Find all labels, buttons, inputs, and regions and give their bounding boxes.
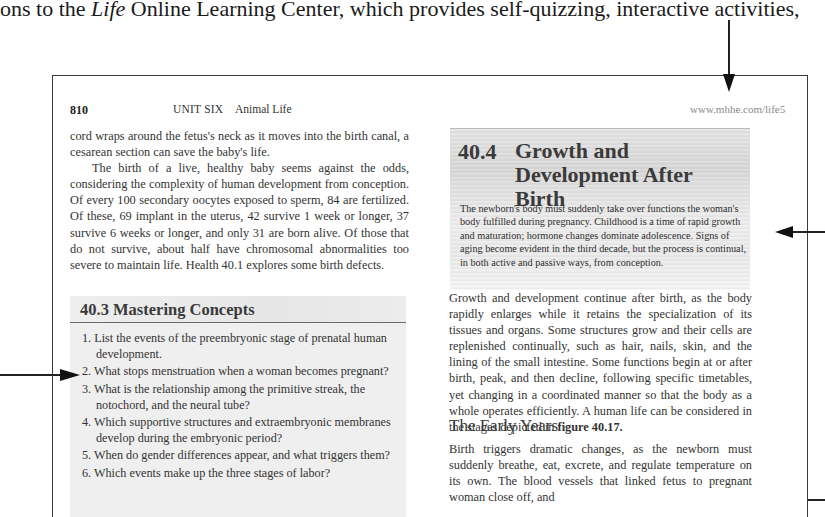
arrow-down-icon bbox=[723, 74, 735, 92]
callout-line-right-bottom bbox=[808, 499, 825, 501]
callout-arrow-left bbox=[0, 374, 62, 376]
caption-after: Online Learning Center, which provides s… bbox=[125, 0, 799, 21]
running-head: 810 UNIT SIX Animal Life www.mhhe.com/li… bbox=[70, 103, 795, 119]
paragraph: cord wraps around the fetus's neck as it… bbox=[70, 128, 409, 160]
website-url[interactable]: www.mhhe.com/life5 bbox=[690, 103, 785, 115]
mastering-concepts-header: 40.3 Mastering Concepts bbox=[70, 296, 406, 323]
paragraph: The birth of a live, healthy baby seems … bbox=[70, 160, 409, 273]
list-item: 5. When do gender differences appear, an… bbox=[82, 447, 400, 463]
arrow-left-icon bbox=[775, 226, 793, 238]
unit-title: Animal Life bbox=[235, 103, 292, 115]
section-header: 40.4 Growth and Development After Birth … bbox=[450, 128, 750, 290]
list-item: 2. What stops menstruation when a woman … bbox=[82, 363, 400, 379]
right-column-text: Growth and development continue after bi… bbox=[449, 290, 752, 435]
caption-text: ons to the Life Online Learning Center, … bbox=[0, 0, 825, 24]
subhead: The Early Years bbox=[449, 416, 558, 436]
list-item: 4. Which supportive structures and extra… bbox=[82, 414, 400, 446]
page-number: 810 bbox=[70, 103, 88, 118]
figure-reference[interactable]: figure 40.17. bbox=[558, 420, 623, 434]
mastering-concepts-title: 40.3 Mastering Concepts bbox=[80, 300, 255, 320]
body-text: Growth and development continue after bi… bbox=[449, 291, 752, 434]
section-title: Growth and Development After Birth bbox=[515, 139, 745, 211]
list-item: 3. What is the relationship among the pr… bbox=[82, 381, 400, 413]
arrow-right-icon bbox=[60, 369, 80, 381]
list-item: 6. Which events make up the three stages… bbox=[82, 465, 400, 481]
caption-italic: Life bbox=[91, 0, 125, 21]
callout-arrow-top bbox=[728, 20, 730, 78]
mastering-concepts-list: 1. List the events of the preembryonic s… bbox=[82, 330, 400, 482]
section-summary: The newborn's body must suddenly take ov… bbox=[460, 202, 750, 269]
left-column-text: cord wraps around the fetus's neck as it… bbox=[70, 128, 409, 273]
caption-before: ons to the bbox=[0, 0, 91, 21]
unit-label: UNIT SIX bbox=[173, 103, 223, 115]
callout-arrow-right bbox=[790, 231, 825, 233]
section-number: 40.4 bbox=[458, 139, 497, 165]
mastering-concepts-box: 40.3 Mastering Concepts 1. List the even… bbox=[70, 296, 406, 517]
list-item: 1. List the events of the preembryonic s… bbox=[82, 330, 400, 362]
subhead-text: Birth triggers dramatic changes, as the … bbox=[449, 441, 752, 505]
